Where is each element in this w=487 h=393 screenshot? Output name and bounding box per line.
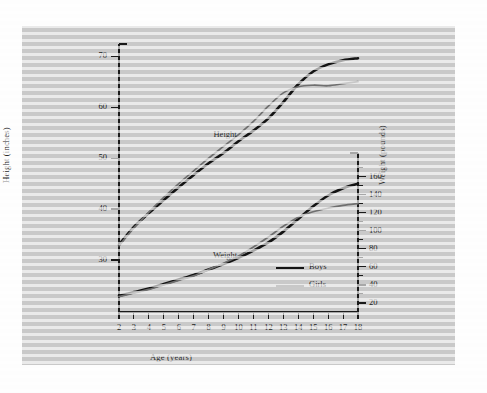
- y-axis-left-title: Height (inches): [1, 127, 11, 183]
- y-tick-label-right: 120: [369, 207, 382, 217]
- series-annotation-height: Height: [213, 129, 236, 139]
- x-tick-label: 17: [339, 322, 348, 332]
- x-tick-label: 14: [294, 322, 303, 332]
- x-tick-label: 5: [162, 322, 166, 332]
- x-axis-title: Age (years): [150, 352, 192, 362]
- x-tick-label: 11: [249, 322, 257, 332]
- y-tick-label-left: 60: [99, 101, 108, 111]
- y-tick-label-right: 60: [369, 261, 378, 271]
- y-tick-label-right: 100: [369, 225, 382, 235]
- y-tick-label-right: 80: [369, 243, 378, 253]
- x-tick-label: 16: [324, 322, 333, 332]
- legend-label-girls: Girls: [309, 279, 326, 289]
- y-tick-label-left: 40: [99, 203, 108, 213]
- series-annotation-weight: Weight: [213, 250, 237, 260]
- x-tick-label: 2: [117, 322, 121, 332]
- x-tick-label: 12: [264, 322, 273, 332]
- series-line-girls-height: [119, 82, 358, 246]
- y-tick-label-right: 160: [369, 171, 382, 181]
- legend-label-boys: Boys: [309, 261, 326, 271]
- x-tick-label: 3: [132, 322, 136, 332]
- x-tick-label: 9: [221, 322, 225, 332]
- x-tick-label: 13: [279, 322, 288, 332]
- y-tick-label-left: 30: [99, 254, 108, 264]
- x-tick-label: 4: [147, 322, 151, 332]
- growth-chart-figure: Height (inches) Weight (pounds) Age (yea…: [0, 0, 487, 393]
- y-tick-label-right: 40: [369, 279, 378, 289]
- x-tick-label: 7: [192, 322, 196, 332]
- y-tick-label-right: 140: [369, 189, 382, 199]
- y-tick-label-left: 70: [99, 50, 108, 60]
- x-tick-label: 10: [234, 322, 243, 332]
- x-tick-label: 8: [207, 322, 211, 332]
- y-tick-label-right: 20: [369, 297, 378, 307]
- x-tick-label: 15: [309, 322, 318, 332]
- legend-group: [276, 268, 304, 286]
- chart-canvas: [0, 0, 487, 393]
- y-tick-label-left: 50: [99, 152, 108, 162]
- x-tick-label: 6: [177, 322, 181, 332]
- x-tick-label: 18: [354, 322, 363, 332]
